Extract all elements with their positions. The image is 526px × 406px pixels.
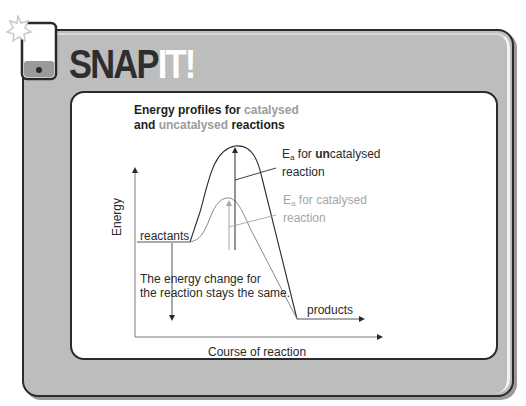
ea-catalysed-leader <box>229 215 276 227</box>
note-line-1: The energy change for <box>140 272 261 286</box>
catalysed-curve <box>190 198 297 319</box>
ea-text: for catalysed <box>295 193 366 207</box>
ea-catalysed-label: Ea for catalysed reaction <box>283 193 367 225</box>
ea-uncatalysed-leader <box>235 168 276 180</box>
ea-uncatalysed-label: Ea for uncatalysed reaction <box>282 147 381 179</box>
ea-text: catalysed <box>330 147 381 161</box>
y-axis-label: Energy <box>110 198 124 236</box>
ea-text: for <box>294 147 315 161</box>
ea-symbol: E <box>283 193 291 207</box>
note-line-2: the reaction stays the same. <box>140 286 290 300</box>
ea-symbol: E <box>282 147 290 161</box>
x-axis-label: Course of reaction <box>208 345 306 359</box>
products-label: products <box>307 303 353 317</box>
reactants-label: reactants <box>140 229 189 243</box>
energy-change-note: The energy change for the reaction stays… <box>140 272 290 300</box>
ea-line2: reaction <box>282 165 325 179</box>
ea-line2: reaction <box>283 211 326 225</box>
ea-emphasis: un <box>315 147 330 161</box>
